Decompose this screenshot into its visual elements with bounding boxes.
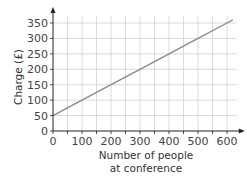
x-axis-arrow-icon (239, 129, 245, 134)
x-axis-label-line1: Number of people (99, 149, 194, 161)
data-series (53, 20, 233, 116)
y-tick-label: 250 (27, 48, 48, 61)
charge-line (53, 20, 233, 116)
y-tick-label: 150 (27, 79, 48, 92)
axes (50, 7, 245, 134)
y-tick-labels: 050100150200250300350 (27, 17, 48, 138)
x-tick-label: 300 (130, 135, 151, 148)
y-tick-label: 0 (41, 125, 48, 138)
line-chart: 050100150200250300350 010020030040050060… (0, 0, 247, 177)
x-tick-label: 100 (72, 135, 93, 148)
x-tick-label: 400 (159, 135, 180, 148)
y-tick-label: 50 (34, 110, 48, 123)
y-axis-label: Charge (£) (12, 49, 24, 105)
x-tick-labels: 0100200300400500600 (50, 135, 238, 148)
x-tick-label: 200 (101, 135, 122, 148)
y-tick-label: 300 (27, 32, 48, 45)
x-tick-label: 0 (50, 135, 57, 148)
x-tick-label: 600 (217, 135, 238, 148)
y-axis-arrow-icon (51, 7, 56, 13)
y-tick-label: 200 (27, 63, 48, 76)
y-tick-label: 350 (27, 17, 48, 30)
y-tick-label: 100 (27, 94, 48, 107)
x-axis-label-line2: at conference (110, 162, 182, 174)
x-tick-label: 500 (188, 135, 209, 148)
